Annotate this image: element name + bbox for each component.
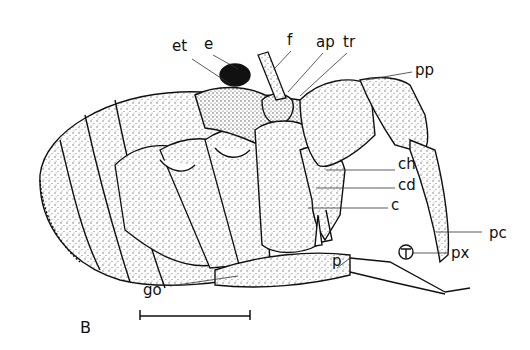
label-et: et <box>172 39 187 54</box>
label-ap: ap <box>316 35 335 50</box>
label-ch: ch <box>398 157 416 172</box>
label-p: p <box>332 254 342 269</box>
flagellum <box>258 52 286 100</box>
leg-p <box>215 253 470 294</box>
label-tr: tr <box>343 35 355 50</box>
label-px: px <box>451 246 469 261</box>
panel-label: B <box>80 320 91 336</box>
label-f: f <box>287 33 292 48</box>
label-e: e <box>204 37 213 52</box>
specimen-illustration <box>0 0 530 350</box>
label-pp: pp <box>415 63 434 78</box>
label-go: go <box>143 283 162 298</box>
label-cd: cd <box>398 178 416 193</box>
label-pc: pc <box>489 226 507 241</box>
scale-bar <box>140 310 250 320</box>
px-structure <box>399 245 413 259</box>
label-c: c <box>391 198 399 213</box>
